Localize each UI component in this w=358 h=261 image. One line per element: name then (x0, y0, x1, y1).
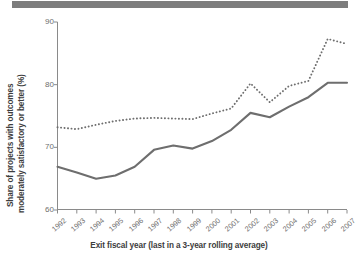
chart-figure: Share of projects with outcomes moderate… (0, 0, 358, 261)
x-axis-tick-labels: 1992199319941995199619971998199920002001… (0, 0, 358, 261)
x-axis-title: Exit fiscal year (last in a 3-year rolli… (0, 241, 358, 250)
